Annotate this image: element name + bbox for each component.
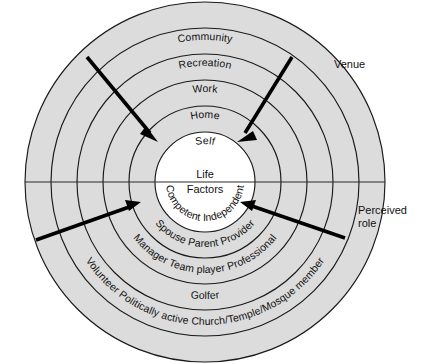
life-factors-diagram: Life Factors Self Home Work Recreation C…	[0, 0, 428, 364]
concentric-ring-wheel: Life Factors Self Home Work Recreation C…	[0, 0, 428, 364]
hub-label-line2: Factors	[187, 183, 224, 195]
side-label-perceived-role: Perceived role	[358, 204, 407, 230]
ring-label-work: Work	[192, 82, 219, 95]
hub-label-line1: Life	[196, 168, 214, 180]
side-label-venue: Venue	[334, 58, 365, 71]
ring-label-home: Home	[189, 108, 221, 122]
ring-label-golfer: Golfer	[190, 288, 220, 301]
